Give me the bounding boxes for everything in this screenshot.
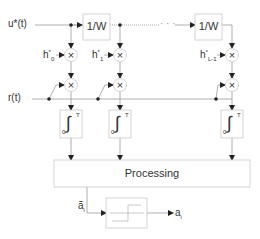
decision-input-label: ãi: [78, 201, 85, 211]
integral-icon: ∫: [115, 114, 120, 132]
multiplier-icon: ×: [65, 50, 77, 61]
integral-icon: ∫: [66, 114, 71, 132]
ellipsis: · · ·: [160, 19, 176, 29]
u-input-label: u*(t): [8, 19, 27, 29]
block-diagram: [0, 0, 260, 239]
tap-hL-1-label: h*L-1: [200, 50, 217, 60]
decision-output-label: ai: [175, 208, 182, 218]
multiplier-icon: ×: [226, 50, 238, 61]
tap-h0-label: h*0: [43, 50, 54, 60]
multiplier-icon: ×: [226, 80, 238, 91]
integral-icon: ∫: [227, 114, 232, 132]
multiplier-icon: ×: [114, 50, 126, 61]
multiplier-icon: ×: [114, 80, 126, 91]
delay-block-2-label: 1/W: [195, 21, 222, 32]
multiplier-icon: ×: [65, 80, 77, 91]
r-input-label: r(t): [8, 93, 21, 103]
processing-label: Processing: [54, 168, 250, 179]
delay-block-1-label: 1/W: [83, 21, 110, 32]
tap-h1-label: h*1: [92, 50, 103, 60]
